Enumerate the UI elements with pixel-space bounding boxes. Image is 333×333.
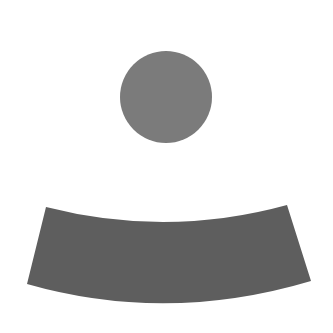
curved-band — [27, 205, 311, 303]
pictogram-svg — [0, 0, 333, 333]
head-circle — [120, 51, 212, 143]
pictogram — [0, 0, 333, 333]
